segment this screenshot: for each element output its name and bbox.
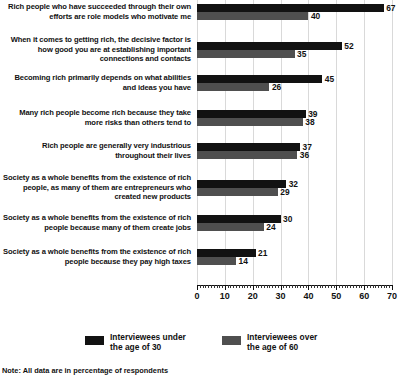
x-tick-label: 50 <box>331 291 341 301</box>
tick-major-10 <box>225 285 226 290</box>
tick-minor-64 <box>375 285 376 288</box>
bar-over-60 <box>197 257 236 265</box>
tick-minor-26 <box>269 285 270 288</box>
tick-major-20 <box>253 285 254 290</box>
bar-value-label: 30 <box>281 214 293 224</box>
tick-minor-57 <box>356 285 357 288</box>
tick-minor-21 <box>256 285 257 288</box>
chart-footnote: Note: All data are in percentage of resp… <box>2 366 168 375</box>
tick-minor-9 <box>222 285 223 288</box>
tick-minor-56 <box>353 285 354 288</box>
tick-minor-69 <box>389 285 390 288</box>
bar-value-label: 29 <box>278 187 290 197</box>
tick-minor-58 <box>359 285 360 288</box>
tick-minor-49 <box>334 285 335 288</box>
bar-under-30 <box>197 110 306 118</box>
tick-minor-42 <box>314 285 315 288</box>
tick-major-0 <box>197 285 198 290</box>
tick-major-30 <box>281 285 282 290</box>
bar-over-60 <box>197 151 297 159</box>
tick-minor-48 <box>331 285 332 288</box>
tick-minor-37 <box>300 285 301 288</box>
legend-item-over-60: Interviewees over the age of 60 <box>222 332 317 352</box>
bar-over-60 <box>197 188 278 196</box>
tick-minor-35 <box>295 285 296 288</box>
bar-over-60 <box>197 12 308 20</box>
tick-major-70 <box>392 285 393 290</box>
bar-value-label: 36 <box>297 150 309 160</box>
legend-label-over-60: Interviewees over the age of 60 <box>247 332 317 352</box>
tick-minor-61 <box>367 285 368 288</box>
tick-minor-25 <box>267 285 268 288</box>
tick-minor-44 <box>320 285 321 288</box>
bar-value-label: 38 <box>303 117 315 127</box>
tick-minor-7 <box>217 285 218 288</box>
tick-minor-24 <box>264 285 265 288</box>
legend-swatch-over-60 <box>222 336 241 345</box>
x-tick-label: 0 <box>194 291 199 301</box>
bar-value-label: 21 <box>256 248 268 258</box>
x-tick-label: 40 <box>303 291 313 301</box>
tick-minor-66 <box>381 285 382 288</box>
bar-over-60 <box>197 223 264 231</box>
bar-value-label: 67 <box>384 3 396 13</box>
tick-minor-63 <box>373 285 374 288</box>
bar-value-label: 40 <box>308 11 320 21</box>
tick-minor-59 <box>361 285 362 288</box>
tick-minor-32 <box>286 285 287 288</box>
tick-minor-68 <box>386 285 387 288</box>
tick-minor-53 <box>345 285 346 288</box>
bar-over-60 <box>197 83 269 91</box>
tick-minor-51 <box>339 285 340 288</box>
tick-minor-11 <box>228 285 229 288</box>
bar-under-30 <box>197 4 384 12</box>
tick-minor-27 <box>272 285 273 288</box>
tick-minor-62 <box>370 285 371 288</box>
tick-minor-12 <box>230 285 231 288</box>
row-label: Society as a whole benefits from the exi… <box>1 173 191 201</box>
bar-under-30 <box>197 180 286 188</box>
tick-minor-15 <box>239 285 240 288</box>
row-label: Many rich people become rich because the… <box>1 108 191 127</box>
bar-value-label: 35 <box>295 49 307 59</box>
tick-minor-16 <box>242 285 243 288</box>
row-label: Society as a whole benefits from the exi… <box>1 213 191 232</box>
x-tick-label: 30 <box>276 291 286 301</box>
tick-minor-41 <box>311 285 312 288</box>
legend-item-under-30: Interviewees under the age of 30 <box>85 332 186 352</box>
bar-over-60 <box>197 118 303 126</box>
chart-legend: Interviewees under the age of 30 Intervi… <box>0 332 413 358</box>
bar-value-label: 24 <box>264 222 276 232</box>
row-label: Society as a whole benefits from the exi… <box>1 247 191 266</box>
tick-minor-19 <box>250 285 251 288</box>
row-label: Becoming rich primarily depends on what … <box>1 73 191 92</box>
tick-minor-47 <box>328 285 329 288</box>
tick-minor-14 <box>236 285 237 288</box>
tick-minor-8 <box>219 285 220 288</box>
x-axis: 010203040506070 <box>197 285 392 311</box>
tick-minor-3 <box>205 285 206 288</box>
chart-rows: Rich people who have succeeded through t… <box>0 0 413 285</box>
x-tick-label: 10 <box>220 291 230 301</box>
tick-minor-4 <box>208 285 209 288</box>
bar-under-30 <box>197 143 300 151</box>
x-tick-label: 20 <box>248 291 258 301</box>
tick-major-40 <box>308 285 309 290</box>
tick-minor-33 <box>289 285 290 288</box>
tick-minor-52 <box>342 285 343 288</box>
tick-minor-46 <box>325 285 326 288</box>
bar-value-label: 26 <box>269 82 281 92</box>
tick-minor-17 <box>244 285 245 288</box>
tick-minor-67 <box>384 285 385 288</box>
tick-minor-65 <box>378 285 379 288</box>
row-label: Rich people who have succeeded through t… <box>1 2 191 21</box>
bar-value-label: 45 <box>322 74 334 84</box>
tick-minor-39 <box>306 285 307 288</box>
tick-minor-29 <box>278 285 279 288</box>
bar-under-30 <box>197 75 322 83</box>
x-tick-label: 60 <box>359 291 369 301</box>
tick-minor-18 <box>247 285 248 288</box>
tick-minor-28 <box>275 285 276 288</box>
tick-minor-45 <box>322 285 323 288</box>
legend-swatch-under-30 <box>85 336 104 345</box>
